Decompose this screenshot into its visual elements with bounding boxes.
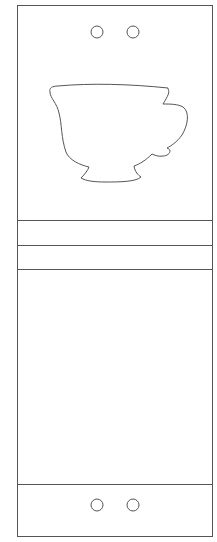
template-canvas [0,0,217,542]
top-hole-left [91,26,103,38]
teacup-icon [50,84,188,182]
outer-border [18,6,213,537]
bottom-hole-left [91,499,103,511]
bottom-hole-right [127,499,139,511]
top-hole-right [127,26,139,38]
